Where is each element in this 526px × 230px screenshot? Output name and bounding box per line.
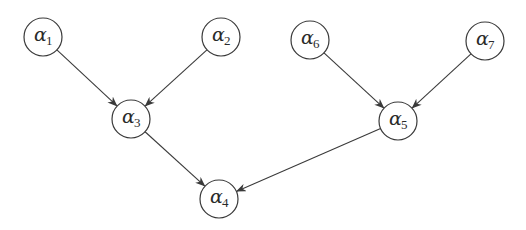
node-a3: α3	[112, 100, 150, 138]
edge-a5-to-a4	[237, 129, 381, 192]
node-a1: α1	[24, 18, 62, 56]
edge-a3-to-a4	[145, 132, 205, 186]
node-subscript: 7	[488, 37, 495, 52]
node-a5: α5	[379, 102, 417, 140]
edge-a1-to-a3	[57, 50, 117, 106]
nodes-layer: α1α2α3α4α5α6α7	[24, 18, 504, 218]
node-a2: α2	[202, 18, 240, 56]
node-subscript: 6	[313, 36, 320, 51]
node-subscript: 5	[401, 117, 408, 132]
graph-canvas: α1α2α3α4α5α6α7	[0, 0, 526, 230]
node-subscript: 1	[46, 33, 53, 48]
node-a6: α6	[291, 21, 329, 59]
edge-a2-to-a3	[145, 50, 207, 106]
node-subscript: 2	[224, 33, 231, 48]
edge-a6-to-a5	[324, 53, 384, 108]
node-subscript: 4	[222, 195, 229, 210]
node-a4: α4	[200, 180, 238, 218]
node-a7: α7	[466, 22, 504, 60]
edge-a7-to-a5	[412, 54, 471, 108]
node-subscript: 3	[134, 115, 141, 130]
